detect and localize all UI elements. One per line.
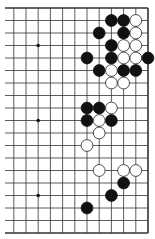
white-stone bbox=[118, 40, 130, 52]
black-stone bbox=[93, 102, 105, 114]
star-point bbox=[36, 44, 40, 48]
white-stone bbox=[118, 52, 130, 64]
black-stone bbox=[118, 27, 130, 39]
white-stone bbox=[93, 115, 105, 127]
black-stone bbox=[118, 15, 130, 27]
black-stone bbox=[106, 115, 118, 127]
star-point bbox=[36, 194, 40, 198]
white-stone bbox=[118, 77, 130, 89]
white-stone bbox=[118, 165, 130, 177]
go-board-diagram bbox=[0, 0, 155, 239]
white-stone bbox=[130, 165, 142, 177]
white-stone bbox=[106, 77, 118, 89]
white-stone bbox=[106, 102, 118, 114]
black-stone bbox=[93, 27, 105, 39]
black-stone bbox=[106, 15, 118, 27]
black-stone bbox=[118, 177, 130, 189]
black-stone bbox=[142, 52, 154, 64]
black-stone bbox=[81, 202, 93, 214]
black-stone bbox=[93, 65, 105, 77]
black-stone bbox=[130, 65, 142, 77]
black-stone bbox=[81, 52, 93, 64]
black-stone bbox=[106, 40, 118, 52]
white-stone bbox=[130, 15, 142, 27]
black-stone bbox=[106, 52, 118, 64]
black-stone bbox=[81, 102, 93, 114]
black-stone bbox=[81, 115, 93, 127]
white-stone bbox=[106, 65, 118, 77]
star-point bbox=[36, 119, 40, 123]
white-stone bbox=[81, 140, 93, 152]
black-stone bbox=[106, 190, 118, 202]
white-stone bbox=[130, 52, 142, 64]
black-stone bbox=[118, 65, 130, 77]
white-stone bbox=[93, 127, 105, 139]
white-stone bbox=[130, 40, 142, 52]
white-stone bbox=[93, 165, 105, 177]
white-stone bbox=[130, 27, 142, 39]
